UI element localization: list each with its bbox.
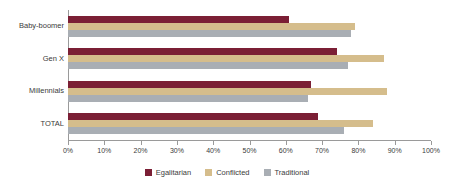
x-axis-tick (358, 141, 359, 145)
x-axis-tick-label: 90% (388, 147, 402, 154)
bar-baby-boomer-traditional (68, 30, 351, 37)
x-axis-tick-label: 30% (170, 147, 184, 154)
x-axis-tick (68, 141, 69, 145)
x-axis-tick-label: 70% (315, 147, 329, 154)
bar-millennials-traditional (68, 95, 308, 102)
legend-label: Conflicted (216, 168, 249, 177)
legend-item-egalitarian[interactable]: Egalitarian (145, 168, 191, 177)
bar-baby-boomer-egalitarian (68, 16, 289, 23)
x-axis-tick (104, 141, 105, 145)
x-axis-tick-label: 100% (422, 147, 440, 154)
y-axis-label-total: TOTAL (0, 119, 64, 128)
legend-item-conflicted[interactable]: Conflicted (205, 168, 249, 177)
bar-chart: 0%10%20%30%40%50%60%70%80%90%100% Baby-b… (0, 0, 454, 188)
bar-millennials-egalitarian (68, 81, 311, 88)
legend-swatch-conflicted-icon (205, 169, 212, 176)
x-axis-tick (250, 141, 251, 145)
legend-swatch-traditional-icon (264, 169, 271, 176)
chart-legend: EgalitarianConflictedTraditional (0, 168, 454, 177)
y-axis-label-millennials: Millennials (0, 86, 64, 95)
legend-item-traditional[interactable]: Traditional (264, 168, 310, 177)
x-axis-tick (395, 141, 396, 145)
plot-area (68, 10, 431, 140)
bar-baby-boomer-conflicted (68, 23, 355, 30)
legend-label: Egalitarian (156, 168, 191, 177)
x-axis-tick-label: 50% (242, 147, 256, 154)
x-axis-tick-label: 40% (206, 147, 220, 154)
y-axis-label-gen-x: Gen X (0, 54, 64, 63)
bar-total-conflicted (68, 120, 373, 127)
x-axis-tick (431, 141, 432, 145)
bar-total-egalitarian (68, 113, 318, 120)
bar-millennials-conflicted (68, 88, 387, 95)
x-axis-tick-label: 60% (279, 147, 293, 154)
bar-gen-x-conflicted (68, 55, 384, 62)
x-axis-tick-label: 10% (97, 147, 111, 154)
x-axis-tick-label: 80% (351, 147, 365, 154)
bar-total-traditional (68, 127, 344, 134)
x-axis-tick (213, 141, 214, 145)
x-axis-tick-label: 20% (134, 147, 148, 154)
x-axis-tick-label: 0% (63, 147, 73, 154)
bar-gen-x-egalitarian (68, 48, 337, 55)
x-axis-tick (322, 141, 323, 145)
x-axis-tick (141, 141, 142, 145)
x-axis-tick (286, 141, 287, 145)
x-axis-tick (177, 141, 178, 145)
legend-swatch-egalitarian-icon (145, 169, 152, 176)
y-axis-label-baby-boomer: Baby-boomer (0, 21, 64, 30)
legend-label: Traditional (275, 168, 310, 177)
bar-gen-x-traditional (68, 62, 348, 69)
